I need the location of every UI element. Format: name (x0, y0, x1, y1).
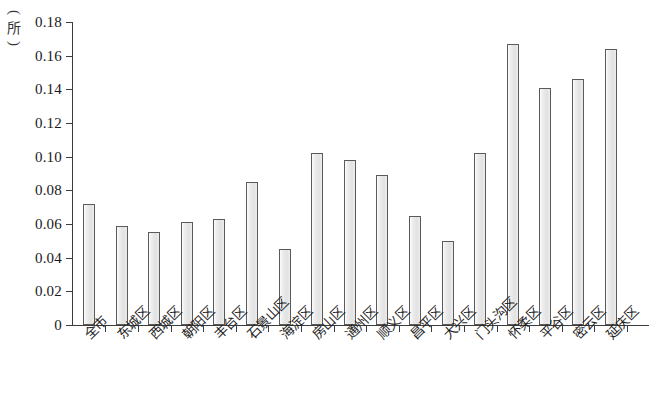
y-axis-tick (66, 224, 73, 225)
y-axis-tick (66, 157, 73, 158)
y-axis-tick-label: 0.06 (0, 217, 62, 232)
y-axis-tick-label: 0.10 (0, 150, 62, 165)
bar (116, 226, 128, 325)
y-axis-tick-label: 0.14 (0, 82, 62, 97)
y-axis-tick-label: 0.16 (0, 49, 62, 64)
bar (344, 160, 356, 325)
bar (572, 79, 584, 325)
y-axis-tick-label: 0.08 (0, 183, 62, 198)
plot-area (72, 22, 649, 326)
bar (507, 44, 519, 325)
bar (539, 88, 551, 325)
bar-chart: ( 所 ) 0.180.160.140.120.100.080.060.040.… (0, 0, 668, 405)
y-axis-tick (66, 291, 73, 292)
bar (83, 204, 95, 325)
bar (246, 182, 258, 325)
y-axis-tick (66, 325, 73, 326)
paren-close: ) (8, 41, 21, 46)
y-axis-tick-label: 0.02 (0, 284, 62, 299)
bar (376, 175, 388, 325)
bar (474, 153, 486, 325)
bar (409, 216, 421, 325)
y-axis-tick (66, 56, 73, 57)
y-axis-tick (66, 258, 73, 259)
y-axis-tick-label: 0.12 (0, 116, 62, 131)
y-axis-tick (66, 123, 73, 124)
bar (311, 153, 323, 325)
y-axis-tick-label: 0.04 (0, 251, 62, 266)
y-axis-tick (66, 22, 73, 23)
bar (605, 49, 617, 325)
y-axis-tick-label: 0.18 (0, 15, 62, 30)
y-axis-tick-label: 0 (0, 318, 62, 333)
y-axis-tick (66, 190, 73, 191)
bar (181, 222, 193, 325)
y-axis-tick (66, 89, 73, 90)
bar (213, 219, 225, 325)
